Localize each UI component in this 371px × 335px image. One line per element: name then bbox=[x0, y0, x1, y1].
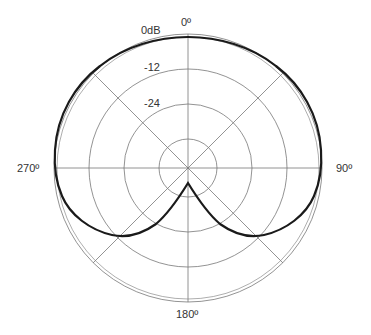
level-label-0db: 0dB bbox=[141, 24, 161, 36]
polar-grid bbox=[54, 34, 322, 302]
angle-label-90: 90º bbox=[336, 162, 352, 174]
angle-label-270: 270º bbox=[17, 162, 39, 174]
angle-label-0: 0º bbox=[181, 16, 191, 28]
angle-label-180: 180º bbox=[176, 308, 198, 320]
level-label-minus-24: -24 bbox=[144, 97, 160, 109]
polar-pattern-diagram: 0º 90º 180º 270º 0dB -12 -24 bbox=[0, 0, 371, 335]
level-label-minus-12: -12 bbox=[144, 61, 160, 73]
